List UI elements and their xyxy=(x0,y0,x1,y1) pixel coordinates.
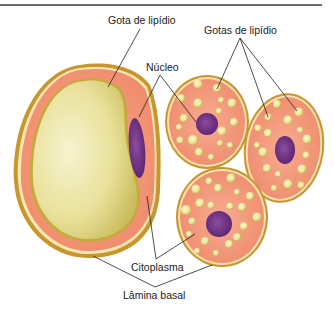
label-citoplasma: Citoplasma xyxy=(131,261,184,273)
nucleus xyxy=(206,211,232,237)
label-nucleo: Núcleo xyxy=(146,61,179,73)
label-gota-lipidio: Gota de lipídio xyxy=(108,14,176,26)
nucleus xyxy=(196,113,218,135)
nucleus xyxy=(275,136,295,164)
multilocular-adipocyte-3 xyxy=(176,167,268,267)
label-gotas-lipidio: Gotas de lipídio xyxy=(204,24,277,36)
label-lamina-basal: Lâmina basal xyxy=(123,289,185,301)
multilocular-adipocyte-1 xyxy=(165,75,249,169)
unilocular-adipocyte xyxy=(14,64,161,258)
